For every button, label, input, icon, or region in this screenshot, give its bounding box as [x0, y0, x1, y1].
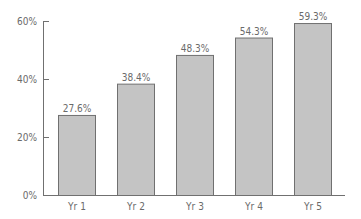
y-tick-label: 60%	[17, 16, 37, 27]
y-tick-label: 0%	[23, 190, 38, 201]
y-axis: 0%20%40%60%	[17, 16, 49, 201]
bar	[177, 55, 214, 195]
bar-group: 59.3%	[295, 11, 332, 195]
chart-canvas: 0%20%40%60% 27.6%38.4%48.3%54.3%59.3% Yr…	[0, 0, 361, 219]
bar	[59, 115, 96, 195]
bar	[236, 38, 273, 195]
bar-group: 38.4%	[118, 72, 155, 196]
bar	[295, 24, 332, 196]
bar-value-label: 38.4%	[122, 72, 151, 83]
bar-value-label: 54.3%	[240, 26, 269, 37]
x-tick-label: Yr 3	[185, 201, 204, 212]
bars: 27.6%38.4%48.3%54.3%59.3%	[59, 11, 332, 195]
y-tick-label: 40%	[17, 74, 37, 85]
x-tick-label: Yr 5	[303, 201, 322, 212]
bar-value-label: 59.3%	[299, 11, 328, 22]
bar-value-label: 48.3%	[181, 43, 210, 54]
bar	[118, 84, 155, 195]
bar-chart: 0%20%40%60% 27.6%38.4%48.3%54.3%59.3% Yr…	[0, 0, 361, 219]
bar-group: 54.3%	[236, 26, 273, 196]
bar-group: 27.6%	[59, 103, 96, 196]
y-tick-label: 20%	[17, 132, 37, 143]
x-tick-label: Yr 2	[126, 201, 145, 212]
x-tick-label: Yr 1	[67, 201, 86, 212]
x-tick-label: Yr 4	[244, 201, 263, 212]
bar-value-label: 27.6%	[63, 103, 92, 114]
bar-group: 48.3%	[177, 43, 214, 196]
x-axis: Yr 1Yr 2Yr 3Yr 4Yr 5	[43, 196, 345, 213]
